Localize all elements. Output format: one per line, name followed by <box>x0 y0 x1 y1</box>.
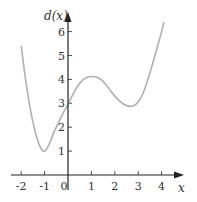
x-tick-label: 2 <box>111 180 118 193</box>
x-tick-label: 3 <box>135 180 142 193</box>
y-tick-label: 3 <box>58 97 65 110</box>
x-tick-label: 4 <box>158 180 165 193</box>
x-tick-label: -1 <box>39 180 50 193</box>
x-axis-arrow-icon <box>174 172 184 179</box>
series-line-d-x <box>21 22 164 151</box>
y-tick-label: 6 <box>58 26 65 39</box>
x-tick-label: 1 <box>88 180 95 193</box>
y-tick-label: 5 <box>58 50 65 63</box>
x-tick-label: -2 <box>16 180 27 193</box>
x-axis-label: x <box>178 181 185 195</box>
chart: -2-101234123456 x d(x) <box>0 0 197 202</box>
y-axis-label: d(x) <box>44 9 68 23</box>
y-tick-label: 4 <box>58 73 65 86</box>
x-tick-label: 0 <box>61 180 68 193</box>
y-tick-label: 2 <box>58 121 65 134</box>
y-tick-label: 1 <box>58 145 65 158</box>
